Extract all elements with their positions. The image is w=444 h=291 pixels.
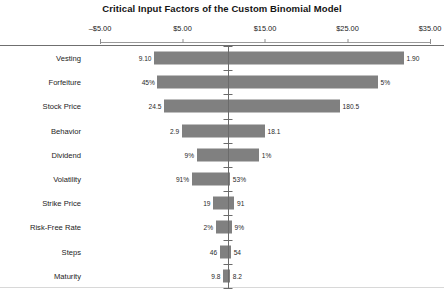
bar-value-high: 18.1 <box>268 127 281 134</box>
category-label: Steps <box>62 247 81 256</box>
chart-row: Maturity9.88.2 <box>0 264 444 288</box>
chart-row: Risk-Free Rate2%9% <box>0 215 444 239</box>
bar-value-high: 1.90 <box>407 55 420 62</box>
bar-value-high: 54 <box>234 248 241 255</box>
x-axis: –$5.00$5.00$15.00$25.00$35.00 <box>0 24 444 46</box>
category-label: Stock Price <box>43 102 81 111</box>
x-axis-tick <box>100 39 101 44</box>
chart-row: Steps4654 <box>0 240 444 264</box>
bar-value-high: 1% <box>262 151 272 158</box>
tornado-bar <box>154 52 404 65</box>
bar-value-high: 5% <box>381 79 391 86</box>
bar-value-low: 46 <box>210 248 217 255</box>
spine-tick <box>223 288 232 289</box>
spine-tick <box>223 46 232 47</box>
chart-row: Dividend9%1% <box>0 143 444 167</box>
bar-value-low: 2.9 <box>170 127 179 134</box>
x-axis-tick-label: –$5.00 <box>89 24 112 33</box>
category-label: Vesting <box>56 54 81 63</box>
spine-tick <box>223 167 232 168</box>
bar-value-low: 19 <box>203 200 210 207</box>
category-label: Risk-Free Rate <box>30 223 81 232</box>
category-label: Forfeiture <box>49 78 82 87</box>
spine-tick <box>223 264 232 265</box>
bar-value-high: 180.5 <box>343 103 360 110</box>
chart-rows: Vesting9.101.90Forfeiture45%5%Stock Pric… <box>0 46 444 288</box>
spine-tick <box>223 191 232 192</box>
tornado-bar <box>164 100 340 113</box>
x-axis-tick <box>430 39 431 44</box>
spine-tick <box>223 215 232 216</box>
bar-value-low: 9.10 <box>139 55 152 62</box>
bar-value-low: 9.8 <box>211 272 220 279</box>
chart-row: Stock Price24.5180.5 <box>0 94 444 118</box>
x-axis-tick-label: $35.00 <box>419 24 442 33</box>
category-label: Strike Price <box>42 199 81 208</box>
chart-row: Vesting9.101.90 <box>0 46 444 70</box>
x-axis-tick <box>182 39 183 43</box>
category-label: Dividend <box>51 150 81 159</box>
bar-value-low: 24.5 <box>149 103 162 110</box>
category-label: Volatility <box>53 175 81 184</box>
tornado-bar <box>213 197 234 210</box>
chart-title: Critical Input Factors of the Custom Bin… <box>0 3 444 14</box>
chart-row: Behavior2.918.1 <box>0 119 444 143</box>
spine-tick <box>223 70 232 71</box>
bar-value-high: 9% <box>235 224 245 231</box>
spine-tick <box>223 240 232 241</box>
bar-value-low: 45% <box>142 79 155 86</box>
tornado-bar <box>223 269 230 282</box>
spine-tick <box>223 119 232 120</box>
tornado-bar <box>157 76 378 89</box>
category-label: Behavior <box>51 126 81 135</box>
chart-row: Forfeiture45%5% <box>0 70 444 94</box>
x-axis-tick <box>347 39 348 43</box>
tornado-bar <box>192 173 231 186</box>
tornado-bar <box>220 245 232 258</box>
tornado-bar <box>216 221 233 234</box>
spine-tick <box>223 94 232 95</box>
tornado-chart: Critical Input Factors of the Custom Bin… <box>0 0 444 291</box>
bar-value-low: 91% <box>176 176 189 183</box>
x-axis-tick <box>265 39 266 43</box>
tornado-bar <box>182 124 265 137</box>
x-axis-tick-label: $25.00 <box>336 24 359 33</box>
category-label: Maturity <box>54 271 81 280</box>
bar-value-high: 8.2 <box>233 272 242 279</box>
x-axis-tick-label: $5.00 <box>173 24 192 33</box>
bar-value-low: 2% <box>203 224 213 231</box>
chart-row: Strike Price1991 <box>0 191 444 215</box>
bar-value-high: 91 <box>237 200 244 207</box>
bar-value-high: 53% <box>233 176 246 183</box>
spine-tick <box>223 143 232 144</box>
x-axis-tick-label: $15.00 <box>254 24 277 33</box>
bar-value-low: 9% <box>185 151 195 158</box>
chart-row: Volatility91%53% <box>0 167 444 191</box>
